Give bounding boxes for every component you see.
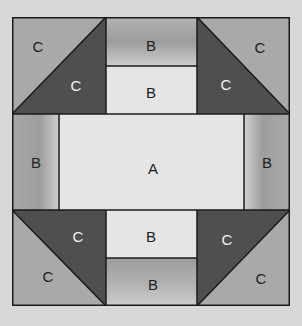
corner-bottom-right <box>197 210 290 306</box>
piece-right-b <box>244 114 290 210</box>
piece-top-outer-b <box>106 17 197 66</box>
quilt-shapes <box>12 17 290 306</box>
piece-bottom-inner-b <box>106 210 197 258</box>
corner-top-right <box>197 17 290 114</box>
piece-center-a <box>59 114 244 210</box>
piece-left-b <box>12 114 59 210</box>
corner-top-left <box>12 17 106 114</box>
quilt-block-diagram: C C B B C C B A B C C B B C C <box>12 17 290 306</box>
corner-bottom-left <box>12 210 106 306</box>
piece-bottom-outer-b <box>106 258 197 306</box>
piece-top-inner-b <box>106 66 197 114</box>
